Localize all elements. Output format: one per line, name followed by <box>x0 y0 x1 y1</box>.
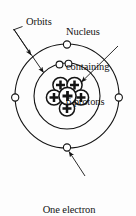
electron-outer-left <box>12 94 19 101</box>
electron-outer-right <box>115 94 122 101</box>
electron-outer-bottom <box>63 144 70 151</box>
label-electron: One electron (a total of 6) <box>19 180 119 216</box>
label-nucleus-line-1: Nucleus <box>66 26 109 38</box>
label-electron-line-1: One electron <box>19 204 119 216</box>
label-nucleus: Nucleus containing 6 protons <box>66 2 109 131</box>
label-nucleus-line-2: containing <box>66 61 109 73</box>
leader-electron <box>69 152 85 177</box>
label-nucleus-line-3: 6 protons <box>66 96 109 108</box>
leader-orbits-inner <box>14 30 44 73</box>
label-orbits: Orbits <box>26 16 52 28</box>
electron-inner-left <box>56 61 63 68</box>
atom-diagram-figure: Orbits Nucleus containing 6 protons One … <box>0 0 136 216</box>
